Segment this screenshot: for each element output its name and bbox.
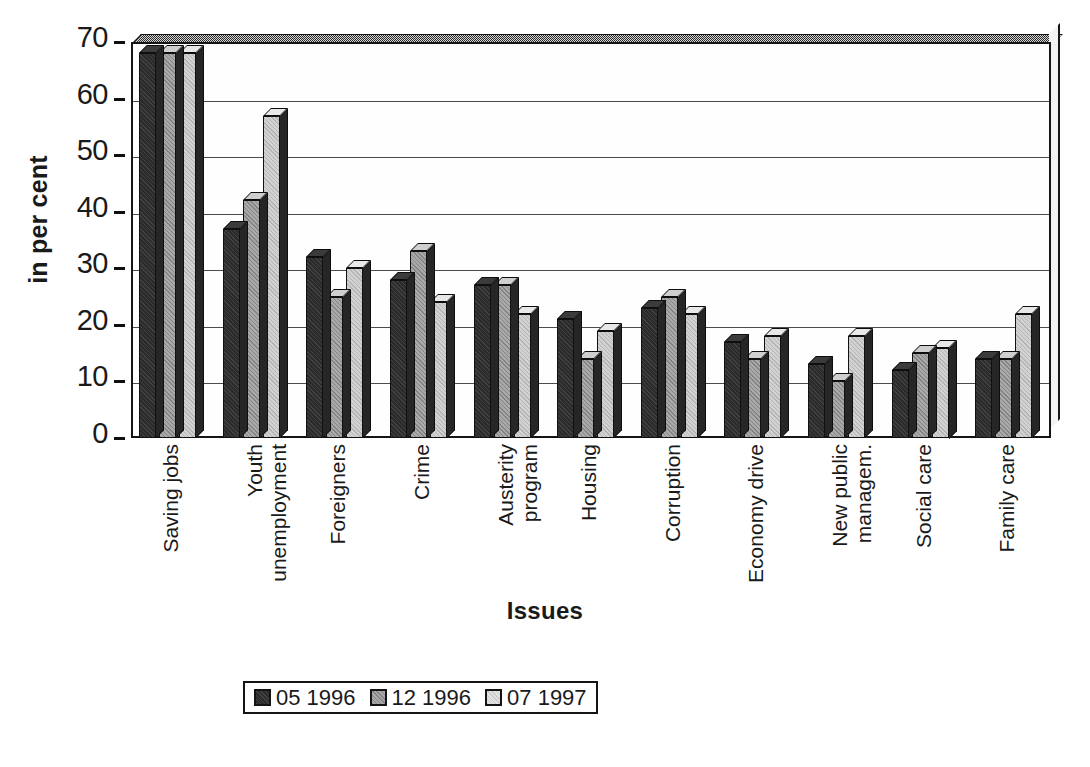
- bar-front-face: [808, 364, 825, 438]
- bar-side-face: [761, 351, 769, 438]
- y-tick-label-60: 60: [52, 78, 108, 111]
- bar-group: [223, 42, 283, 438]
- x-category-label: Economy drive: [744, 444, 766, 592]
- y-tick-label-0: 0: [52, 417, 108, 450]
- bar-side-face: [614, 323, 622, 438]
- bar: [892, 370, 909, 438]
- y-tick-mark-40: [114, 211, 125, 214]
- bar: [306, 257, 323, 438]
- bar-side-face: [240, 221, 248, 438]
- bar-side-face: [594, 351, 602, 438]
- y-tick-label-30: 30: [52, 247, 108, 280]
- bar-side-face: [511, 277, 519, 438]
- bar-side-face: [427, 243, 435, 438]
- bar: [557, 319, 574, 438]
- bar: [641, 308, 658, 438]
- x-category-label: program: [518, 444, 540, 592]
- bar-side-face: [698, 306, 706, 438]
- y-tick-mark-70: [114, 41, 125, 44]
- bar-front-face: [724, 342, 741, 438]
- bar-group: [808, 42, 868, 438]
- bar-group: [306, 42, 366, 438]
- x-category-label: Crime: [410, 444, 432, 592]
- bar-side-face: [1032, 306, 1040, 438]
- legend-swatch: [485, 689, 502, 706]
- x-category-label: Austerity: [494, 444, 516, 592]
- x-axis-category-labels: Saving jobsYouthunemploymentForeignersCr…: [131, 444, 1051, 594]
- bar-side-face: [407, 272, 415, 438]
- legend-label: 05 1996: [276, 685, 356, 711]
- bar-group: [975, 42, 1035, 438]
- bar: [724, 342, 741, 438]
- y-tick-label-70: 70: [52, 21, 108, 54]
- bar-front-face: [139, 53, 156, 438]
- x-category-label: New public: [828, 444, 850, 592]
- bar: [139, 53, 156, 438]
- bar-side-face: [741, 334, 749, 438]
- legend-item: 12 1996: [370, 685, 472, 711]
- legend-label: 12 1996: [392, 685, 472, 711]
- legend-label: 07 1997: [507, 685, 587, 711]
- y-tick-mark-10: [114, 380, 125, 383]
- x-category-label: Saving jobs: [159, 444, 181, 592]
- bar-side-face: [678, 289, 686, 438]
- bar-front-face: [390, 280, 407, 438]
- y-tick-label-20: 20: [52, 304, 108, 337]
- bar-side-face: [491, 277, 499, 438]
- x-category-label: Housing: [577, 444, 599, 592]
- y-tick-label-50: 50: [52, 134, 108, 167]
- bar-side-face: [929, 345, 937, 438]
- bar-front-face: [223, 229, 240, 438]
- bar-front-face: [306, 257, 323, 438]
- bar-side-face: [343, 289, 351, 438]
- bar-side-face: [156, 45, 164, 438]
- bar-group: [641, 42, 701, 438]
- bar-group: [139, 42, 199, 438]
- y-axis-title: in per cent: [24, 130, 53, 310]
- bar-side-face: [825, 356, 833, 438]
- y-tick-mark-60: [114, 98, 125, 101]
- y-tick-mark-30: [114, 267, 125, 270]
- bar-front-face: [474, 285, 491, 438]
- legend-item: 07 1997: [485, 685, 587, 711]
- bar-side-face: [992, 351, 1000, 438]
- x-category-label: unemployment: [267, 444, 289, 592]
- bar-side-face: [1012, 351, 1020, 438]
- bar-side-face: [658, 300, 666, 438]
- bar: [223, 229, 240, 438]
- bar-side-face: [280, 108, 288, 438]
- y-tick-label-40: 40: [52, 191, 108, 224]
- y-tick-label-10: 10: [52, 360, 108, 393]
- bar-side-face: [781, 328, 789, 438]
- bar-chart: in per cent 010203040506070 Saving jobsY…: [0, 0, 1090, 767]
- bar-side-face: [363, 260, 371, 438]
- y-tick-mark-50: [114, 154, 125, 157]
- chart-legend: 05 199612 199607 1997: [243, 681, 598, 714]
- bar-front-face: [892, 370, 909, 438]
- bar-side-face: [176, 45, 184, 438]
- bar-side-face: [447, 294, 455, 438]
- x-category-label: Family care: [995, 444, 1017, 592]
- bar-side-face: [909, 362, 917, 438]
- bar: [474, 285, 491, 438]
- x-category-label: Social care: [912, 444, 934, 592]
- bars-layer: [131, 42, 1051, 438]
- bar-group: [892, 42, 952, 438]
- bar-side-face: [531, 306, 539, 438]
- bar-side-face: [574, 311, 582, 438]
- bar: [975, 359, 992, 438]
- bar-group: [474, 42, 534, 438]
- legend-item: 05 1996: [254, 685, 356, 711]
- bar-side-face: [845, 373, 853, 438]
- bar-front-face: [641, 308, 658, 438]
- x-category-label: Foreigners: [326, 444, 348, 592]
- bar-group: [557, 42, 617, 438]
- bar: [808, 364, 825, 438]
- bar-side-face: [323, 249, 331, 438]
- bar: [390, 280, 407, 438]
- bar-group: [724, 42, 784, 438]
- bar-side-face: [865, 328, 873, 438]
- legend-swatch: [254, 689, 271, 706]
- bar-side-face: [260, 192, 268, 438]
- y-tick-mark-20: [114, 324, 125, 327]
